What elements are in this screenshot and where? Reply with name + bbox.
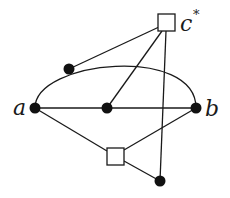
label-c: c (180, 11, 192, 36)
label-a: a (13, 95, 26, 120)
label-c-superscript: * (193, 7, 200, 22)
edge-c-t (69, 27, 159, 69)
edge-c-d (160, 31, 166, 181)
label-b: b (205, 96, 219, 121)
edge-arc-a-b (35, 66, 196, 108)
node-d (155, 176, 166, 187)
edge-s-d (124, 161, 160, 181)
node-m (102, 103, 113, 114)
edge-b-s (124, 108, 196, 150)
node-s-square (107, 148, 124, 165)
edge-a-s (35, 108, 107, 151)
node-b (191, 103, 202, 114)
graph-diagram: a b c * (0, 0, 230, 198)
node-a (30, 103, 41, 114)
node-t (64, 64, 75, 75)
node-c-square (158, 14, 175, 31)
